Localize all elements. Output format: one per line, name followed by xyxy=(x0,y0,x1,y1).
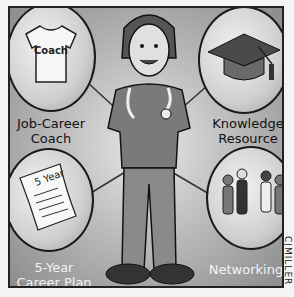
svg-text:Coach: Coach xyxy=(34,45,68,56)
knowledge-bubble xyxy=(198,6,284,114)
graduation-cap-icon xyxy=(200,8,284,112)
document-icon: 5 Year xyxy=(8,150,92,250)
people-group-icon xyxy=(208,148,284,248)
career-plan-bubble: 5 Year xyxy=(8,148,94,252)
t-shirt-icon: Coach xyxy=(8,6,94,110)
artist-signature: CJMILLER xyxy=(283,236,293,285)
five-year-career-plan-label: 5-Year Career Plan xyxy=(14,260,94,288)
networking-bubble xyxy=(206,146,284,250)
networking-label: Networking xyxy=(206,262,284,277)
knowledge-resource-label: Knowledge Resource xyxy=(206,116,284,146)
job-career-coach-label: Job-Career Coach xyxy=(10,116,92,146)
illustration-frame: Coach Job-Career Coach Knowledge Resourc… xyxy=(8,6,284,288)
doctor-figure xyxy=(94,8,204,288)
coach-bubble: Coach xyxy=(8,6,96,112)
